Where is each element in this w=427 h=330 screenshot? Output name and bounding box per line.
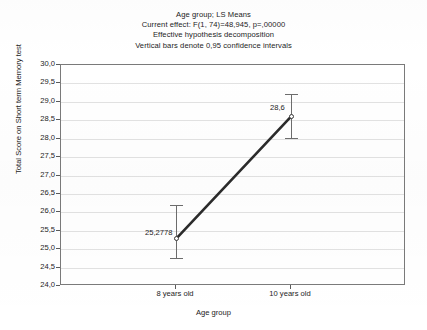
error-bar-cap-lower [285, 138, 298, 139]
error-bar-cap-upper [170, 205, 183, 206]
error-bar-cap-upper [285, 94, 298, 95]
error-bar-stem [176, 205, 177, 258]
chart-title-line-4: Vertical bars denote 0,95 confidence int… [0, 41, 427, 51]
y-axis-tick-label: 29,0 [15, 97, 55, 105]
data-marks: 25,277828,6 [61, 65, 404, 284]
chart-title-line-1: Age group; LS Means [0, 10, 427, 20]
y-axis-tick-mark [56, 285, 60, 286]
plot-area: 25,277828,6 [60, 64, 405, 285]
data-point-label: 28,6 [270, 104, 285, 112]
y-axis-tick-label: 26,5 [15, 189, 55, 197]
x-axis-tick-label: 8 years old [127, 289, 223, 298]
error-bar-cap-lower [170, 258, 183, 259]
data-point-label: 25,2778 [145, 229, 172, 237]
chart-title-line-3: Effective hypothesis decomposition [0, 30, 427, 40]
y-axis-tick-label: 30,0 [15, 60, 55, 68]
y-axis-tick-label: 24,5 [15, 263, 55, 271]
y-axis-tick-label: 24,0 [15, 281, 55, 289]
chart-screenshot: Age group; LS Means Current effect: F(1,… [0, 0, 427, 330]
y-axis-tick-label: 25,5 [15, 226, 55, 234]
y-axis-tick-label: 29,5 [15, 78, 55, 86]
y-axis-tick-label: 28,0 [15, 134, 55, 142]
y-axis-tick-label: 27,0 [15, 171, 55, 179]
chart-title-line-2: Current effect: F(1, 74)=48,945, p=,0000… [0, 20, 427, 30]
chart-title-block: Age group; LS Means Current effect: F(1,… [0, 10, 427, 51]
y-axis-tick-label: 28,5 [15, 115, 55, 123]
series-line-path [61, 65, 406, 286]
y-axis-tick-label: 27,5 [15, 152, 55, 160]
data-point-marker[interactable] [289, 114, 294, 119]
x-axis-tick-label: 10 years old [242, 289, 338, 298]
x-axis-title: Age group [0, 308, 427, 317]
y-axis-tick-label: 25,0 [15, 244, 55, 252]
y-axis-tick-label: 26,0 [15, 207, 55, 215]
